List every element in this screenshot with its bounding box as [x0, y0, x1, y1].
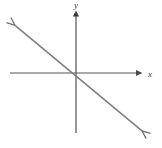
x-axis-label: x: [147, 69, 152, 79]
y-axis-label: y: [73, 0, 78, 10]
graph-figure: y x: [0, 0, 162, 148]
coordinate-plane-svg: y x: [0, 0, 162, 148]
